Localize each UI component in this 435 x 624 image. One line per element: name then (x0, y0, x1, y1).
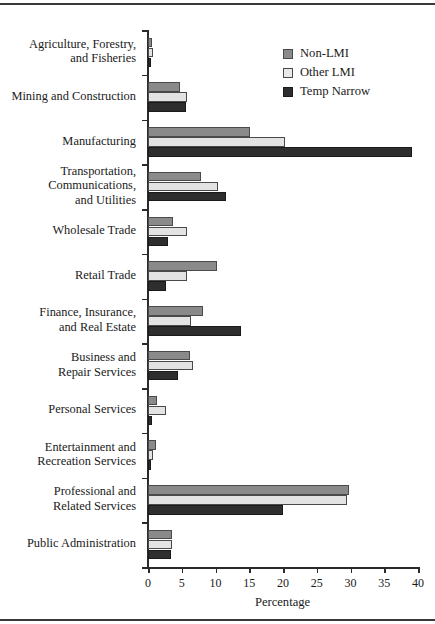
category-label: Mining and Construction (0, 89, 136, 104)
bar-2 (148, 371, 178, 381)
x-axis-tick-label: 35 (369, 576, 399, 591)
y-axis-tick (142, 164, 148, 166)
x-axis-tick (249, 567, 251, 573)
category-label: Transportation,Communications,and Utilit… (0, 164, 136, 208)
bar-1 (148, 271, 187, 281)
category-label: Wholesale Trade (0, 223, 136, 238)
x-axis-tick-label: 0 (133, 576, 163, 591)
x-axis-tick (418, 567, 420, 573)
bar-1 (148, 48, 153, 58)
category-label-line: Wholesale Trade (0, 223, 136, 238)
bar-2 (148, 281, 166, 291)
bar-0 (148, 440, 156, 450)
bar-2 (148, 102, 186, 112)
bar-2 (148, 326, 241, 336)
y-axis-tick (142, 343, 148, 345)
legend-label-non-lmi: Non-LMI (300, 46, 349, 61)
category-label-line: and Fisheries (0, 51, 136, 66)
category-label-line: Manufacturing (0, 134, 136, 149)
y-axis-tick (142, 522, 148, 524)
category-label-line: Agriculture, Forestry, (0, 37, 136, 52)
bar-1 (148, 182, 218, 192)
category-label-line: Mining and Construction (0, 89, 136, 104)
bar-2 (148, 58, 151, 68)
category-label-line: and Real Estate (0, 320, 136, 335)
legend-item-non-lmi: Non-LMI (283, 44, 370, 63)
y-axis-tick (142, 388, 148, 390)
x-axis-tick (216, 567, 218, 573)
legend-label-temp-narrow: Temp Narrow (300, 84, 370, 99)
x-axis-tick-label: 5 (167, 576, 197, 591)
bar-1 (148, 361, 193, 371)
x-axis-tick (384, 567, 386, 573)
category-label-line: Recreation Services (0, 454, 136, 469)
bar-0 (148, 530, 172, 540)
bar-0 (148, 217, 173, 227)
x-axis-tick-label: 15 (234, 576, 264, 591)
series-0-swatch-icon (283, 49, 293, 59)
x-axis-tick-label: 30 (336, 576, 366, 591)
bar-2 (148, 550, 171, 560)
bar-2 (148, 460, 151, 470)
category-label: Agriculture, Forestry,and Fisheries (0, 37, 136, 66)
category-label: Entertainment andRecreation Services (0, 440, 136, 469)
y-axis-tick (142, 209, 148, 211)
bar-1 (148, 137, 285, 147)
category-label-line: Finance, Insurance, (0, 305, 136, 320)
x-axis-title: Percentage (147, 595, 418, 610)
bar-0 (148, 127, 250, 137)
x-axis-tick-label: 25 (302, 576, 332, 591)
legend-item-other-lmi: Other LMI (283, 63, 370, 82)
legend-label-other-lmi: Other LMI (300, 65, 355, 80)
category-label-line: Repair Services (0, 365, 136, 380)
bar-0 (148, 38, 152, 48)
category-label: Professional andRelated Services (0, 484, 136, 513)
bar-1 (148, 406, 166, 416)
bar-0 (148, 82, 180, 92)
x-axis-tick (283, 567, 285, 573)
category-label-line: Entertainment and (0, 440, 136, 455)
category-label-line: Retail Trade (0, 268, 136, 283)
bar-2 (148, 192, 226, 202)
bar-1 (148, 227, 187, 237)
legend-item-temp-narrow: Temp Narrow (283, 82, 370, 101)
category-label-line: Transportation, (0, 164, 136, 179)
bar-0 (148, 485, 349, 495)
x-axis-tick-label: 10 (201, 576, 231, 591)
category-label: Finance, Insurance,and Real Estate (0, 305, 136, 334)
category-label-line: Business and (0, 350, 136, 365)
category-label: Manufacturing (0, 134, 136, 149)
bar-2 (148, 416, 152, 426)
x-axis-tick (182, 567, 184, 573)
category-label-line: Public Administration (0, 536, 136, 551)
bar-1 (148, 540, 172, 550)
bar-2 (148, 147, 412, 157)
series-1-swatch-icon (283, 68, 293, 78)
bar-0 (148, 396, 157, 406)
bar-0 (148, 306, 203, 316)
y-axis-tick (142, 433, 148, 435)
bar-0 (148, 351, 190, 361)
category-label: Public Administration (0, 536, 136, 551)
category-label: Business andRepair Services (0, 350, 136, 379)
bar-0 (148, 261, 217, 271)
category-label: Retail Trade (0, 268, 136, 283)
bar-chart: 0510152025303540 Agriculture, Forestry,a… (0, 0, 435, 624)
x-axis-tick-label: 20 (268, 576, 298, 591)
category-label-line: Related Services (0, 499, 136, 514)
x-axis-tick (317, 567, 319, 573)
y-axis-tick (142, 478, 148, 480)
y-axis-tick (142, 30, 148, 32)
category-label: Personal Services (0, 402, 136, 417)
chart-legend: Non-LMI Other LMI Temp Narrow (283, 44, 370, 101)
y-axis-tick (142, 120, 148, 122)
bar-1 (148, 92, 187, 102)
bar-1 (148, 495, 347, 505)
x-axis-tick (351, 567, 353, 573)
x-axis-tick (148, 567, 150, 573)
category-label-line: Communications, (0, 178, 136, 193)
bar-1 (148, 316, 191, 326)
x-axis-tick-label: 40 (403, 576, 433, 591)
bar-2 (148, 237, 168, 247)
category-label-line: Professional and (0, 484, 136, 499)
